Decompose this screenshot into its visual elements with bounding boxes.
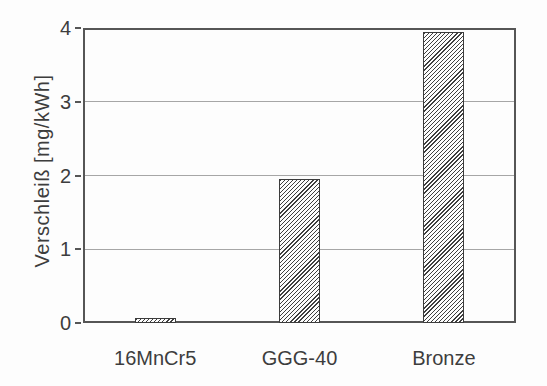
y-axis-tick-3 (75, 101, 81, 103)
bar-ggg-40 (279, 179, 320, 323)
bar-16mncr5 (135, 318, 176, 323)
y-axis-tick-4 (75, 27, 81, 29)
y-axis-tick-1 (75, 248, 81, 250)
y-tick-label-1: 1 (37, 239, 71, 259)
y-tick-label-4: 4 (37, 18, 71, 38)
y-tick-label-3: 3 (37, 92, 71, 112)
y-axis-tick-0 (75, 322, 81, 324)
x-tick-label-16mncr5: 16MnCr5 (85, 347, 225, 369)
y-tick-label-0: 0 (37, 313, 71, 333)
bar-bronze (423, 32, 464, 323)
x-tick-label-bronze: Bronze (374, 347, 514, 369)
y-axis-tick-2 (75, 175, 81, 177)
y-tick-label-2: 2 (37, 166, 71, 186)
bar-chart-figure: Verschleiß [mg/kWh] 0123416MnCr5GGG-40Br… (0, 0, 547, 386)
x-tick-label-ggg-40: GGG-40 (230, 347, 370, 369)
